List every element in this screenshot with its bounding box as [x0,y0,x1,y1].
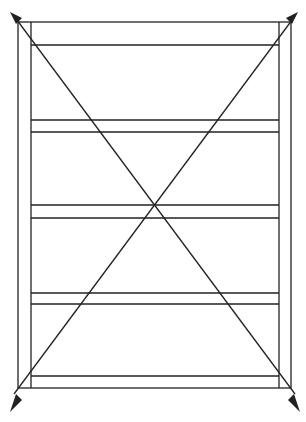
diagram-canvas [0,0,306,422]
arrowhead-bottom-left-icon [10,394,22,412]
arrowhead-bottom-right-icon [288,394,300,412]
frame-diagram [0,0,306,422]
